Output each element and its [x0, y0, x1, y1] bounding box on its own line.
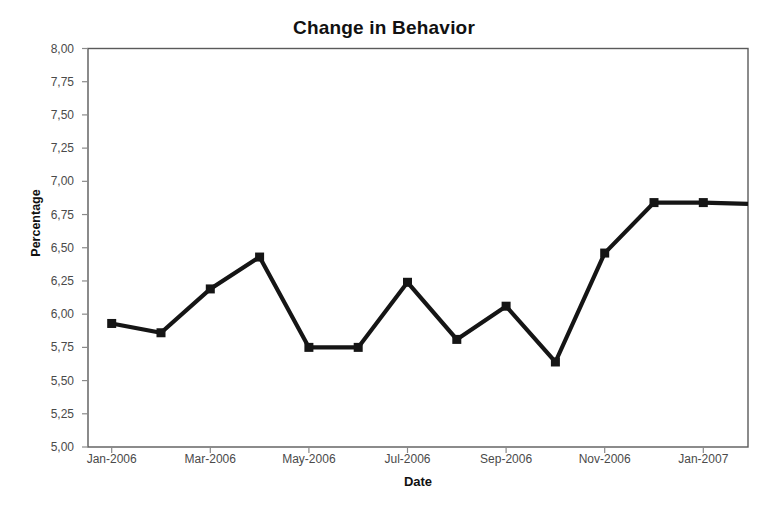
plot-border — [88, 49, 748, 448]
data-point-marker — [304, 343, 313, 352]
data-point-marker — [255, 253, 264, 262]
plot-area — [0, 0, 768, 512]
data-point-marker — [107, 319, 116, 328]
plot-frame — [88, 49, 748, 448]
data-point-marker — [354, 343, 363, 352]
data-point-marker — [206, 284, 215, 293]
series-markers-percentage — [107, 198, 708, 366]
data-point-marker — [600, 249, 609, 258]
data-point-marker — [403, 278, 412, 287]
y-axis-ticks — [82, 49, 88, 448]
x-axis-title: Date — [88, 474, 748, 489]
data-series-group — [107, 198, 748, 366]
data-point-marker — [551, 357, 560, 366]
data-point-marker — [699, 198, 708, 207]
data-point-marker — [452, 335, 461, 344]
data-point-marker — [157, 328, 166, 337]
x-axis-ticks — [112, 447, 704, 453]
data-point-marker — [502, 302, 511, 311]
series-line-percentage — [112, 203, 748, 362]
line-chart: Change in Behavior Percentage 8,007,757,… — [0, 0, 768, 512]
data-point-marker — [650, 198, 659, 207]
